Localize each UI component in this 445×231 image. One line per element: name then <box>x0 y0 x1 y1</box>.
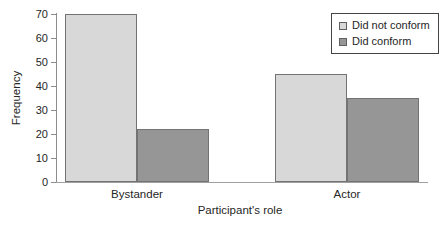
legend-box: Did not conformDid conform <box>331 13 439 54</box>
y-tick-label: 50 <box>20 55 48 69</box>
y-tick-label: 20 <box>20 127 48 141</box>
legend-label: Did not conform <box>352 19 430 32</box>
y-tick-label: 0 <box>20 175 48 189</box>
bar-chart-figure: Frequency 010203040506070 BystanderActor… <box>0 0 445 231</box>
y-tick-label: 30 <box>20 103 48 117</box>
legend-swatch-icon <box>339 38 347 46</box>
y-tick-label: 10 <box>20 151 48 165</box>
y-tick-mark <box>51 86 56 87</box>
y-tick-mark <box>51 182 56 183</box>
bar-bystander-did-conform <box>137 129 209 182</box>
legend-swatch-icon <box>339 22 347 30</box>
y-tick-label: 70 <box>20 7 48 21</box>
y-axis-line <box>56 13 57 183</box>
legend-item: Did not conform <box>339 19 430 32</box>
legend-label: Did conform <box>352 35 411 48</box>
y-tick-mark <box>51 158 56 159</box>
y-tick-label: 40 <box>20 79 48 93</box>
y-tick-mark <box>51 134 56 135</box>
bar-actor-did-not-conform <box>275 74 347 182</box>
bar-actor-did-conform <box>347 98 419 182</box>
y-tick-mark <box>51 110 56 111</box>
x-category-label-actor: Actor <box>302 188 392 200</box>
legend-item: Did conform <box>339 35 430 48</box>
bar-bystander-did-not-conform <box>65 14 137 182</box>
x-axis-title: Participant's role <box>130 204 350 216</box>
x-axis-line <box>56 182 428 183</box>
y-tick-label: 60 <box>20 31 48 45</box>
x-category-label-bystander: Bystander <box>92 188 182 200</box>
y-tick-mark <box>51 38 56 39</box>
y-tick-mark <box>51 14 56 15</box>
y-tick-mark <box>51 62 56 63</box>
